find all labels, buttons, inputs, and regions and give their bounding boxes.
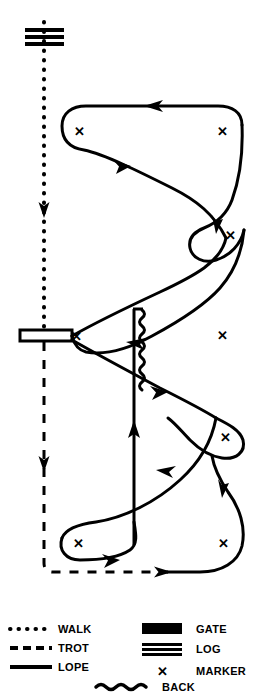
pattern-diagram: ✕ ✕ ✕ ✕ ✕ ✕ ✕ ✕ WALK TROT LOPE xyxy=(0,0,260,696)
legend-item-lope: LOPE xyxy=(10,661,89,673)
legend-back-label: BACK xyxy=(162,681,195,693)
legend-item-marker: ✕ MARKER xyxy=(157,664,247,679)
marker-bottom-right: ✕ xyxy=(218,536,229,551)
marker-mid-right: ✕ xyxy=(225,228,236,243)
trot-path-group xyxy=(39,342,173,578)
legend-lope-label: LOPE xyxy=(58,661,89,673)
legend-item-walk: WALK xyxy=(10,623,92,635)
lope-top-loop xyxy=(72,238,226,336)
legend-log-bar-1 xyxy=(142,643,182,646)
legend-log-bar-3 xyxy=(142,653,182,656)
legend-item-trot: TROT xyxy=(10,642,89,654)
marker-gate-side: ✕ xyxy=(71,329,82,344)
walk-path-group xyxy=(39,22,50,330)
legend-item-back: BACK xyxy=(96,681,195,693)
log-obstacle xyxy=(25,28,64,46)
legend-log-label: LOG xyxy=(196,643,221,655)
log-bar-2 xyxy=(25,35,64,39)
diagram-canvas: ✕ ✕ ✕ ✕ ✕ ✕ ✕ ✕ WALK TROT LOPE xyxy=(0,0,260,696)
log-bar-3 xyxy=(25,42,64,46)
gate-obstacle xyxy=(20,330,72,341)
legend-item-gate: GATE xyxy=(142,623,227,635)
legend-marker-label: MARKER xyxy=(196,665,246,677)
lope-arrow-upper-diagonal xyxy=(113,160,131,174)
lope-bottom-right-sweep xyxy=(168,456,243,572)
lope-right-bulge-lower xyxy=(168,418,244,458)
marker-bottom-left: ✕ xyxy=(73,536,84,551)
marker-top-right: ✕ xyxy=(217,124,228,139)
legend-gate-symbol xyxy=(142,623,182,634)
lope-top-arc xyxy=(62,106,242,238)
legend-marker-symbol: ✕ xyxy=(157,664,168,679)
log-bar-1 xyxy=(25,28,64,32)
marker-lower-right: ✕ xyxy=(220,430,231,445)
legend-log-bar-2 xyxy=(142,648,182,651)
legend-walk-label: WALK xyxy=(58,623,92,635)
legend-trot-label: TROT xyxy=(58,642,89,654)
legend-item-log: LOG xyxy=(142,643,221,656)
legend: WALK TROT LOPE GATE LOG xyxy=(10,623,246,693)
marker-gate-right: ✕ xyxy=(217,328,228,343)
legend-gate-label: GATE xyxy=(196,623,227,635)
legend-back-symbol xyxy=(96,685,146,690)
marker-top-left: ✕ xyxy=(74,124,85,139)
lope-arrow-lower-left xyxy=(156,466,176,478)
lope-right-bulge-upper xyxy=(190,125,244,261)
gate-bar xyxy=(20,330,72,341)
lope-gate-down-right xyxy=(72,340,216,418)
